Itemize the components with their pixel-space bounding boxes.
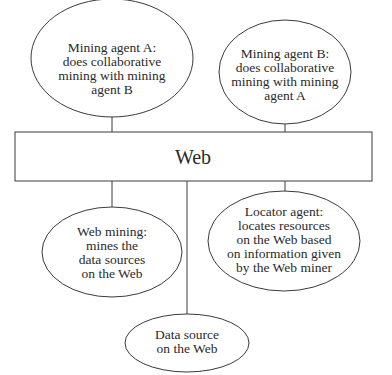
node-text-line: does collaborative — [63, 54, 162, 69]
node-text-line: Web mining: — [77, 224, 147, 239]
node-locator-agent: Locator agent: locates resources on the … — [208, 191, 360, 291]
node-text-line: on the Web — [157, 341, 218, 356]
node-text-line: agent A — [264, 88, 306, 103]
web-box: Web — [15, 132, 372, 181]
web-label: Web — [175, 146, 211, 168]
node-mining-agent-a: Mining agent A: does collaborative minin… — [31, 0, 193, 117]
node-text-line: mines the — [86, 238, 138, 253]
node-text-line: by the Web miner — [236, 260, 332, 275]
node-text-line: Mining agent B: — [241, 46, 330, 61]
node-text-line: mining with mining — [231, 74, 339, 89]
node-text-line: locates resources — [238, 218, 330, 233]
node-text-line: mining with mining — [58, 68, 166, 83]
node-text-line: data sources — [79, 252, 145, 267]
node-text-line: Locator agent: — [245, 204, 323, 219]
node-mining-agent-b: Mining agent B: does collaborative minin… — [219, 20, 351, 124]
node-web-mining: Web mining: mines the data sources on th… — [42, 207, 182, 297]
node-text-line: agent B — [91, 82, 133, 97]
node-text-line: Data source — [155, 327, 219, 342]
node-text-line: on the Web — [82, 266, 143, 281]
node-data-source: Data source on the Web — [125, 314, 249, 372]
diagram-canvas: Web Mining agent A: does collaborative m… — [0, 0, 392, 375]
node-text-line: Mining agent A: — [68, 40, 157, 55]
node-text-line: on information given — [227, 246, 341, 261]
node-text-line: on the Web based — [236, 232, 331, 247]
node-text-line: does collaborative — [236, 60, 335, 75]
